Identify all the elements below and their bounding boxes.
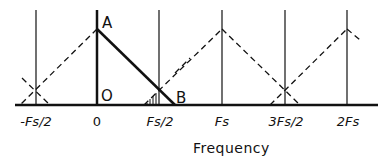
- spectrum-diagram: [0, 0, 380, 165]
- point-b-label: B: [176, 89, 186, 107]
- tick-label-neg-half-fs: -Fs/2: [20, 114, 52, 129]
- image-spectra: [20, 29, 360, 105]
- tick-label-zero: 0: [93, 114, 101, 129]
- point-a-label: A: [102, 14, 112, 32]
- tick-label-fs: Fs: [215, 114, 229, 129]
- tick-label-half-fs: Fs/2: [147, 114, 174, 129]
- point-o-label: O: [101, 87, 113, 105]
- tick-label-three-half-fs: 3Fs/2: [268, 114, 303, 129]
- tick-label-two-fs: 2Fs: [337, 114, 360, 129]
- x-axis-label: Frequency: [193, 140, 270, 156]
